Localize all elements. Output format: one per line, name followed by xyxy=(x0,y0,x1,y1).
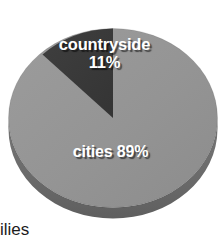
pie-chart-figure: countryside 11% cities 89% ilies xyxy=(0,0,221,237)
pie-chart-graphic xyxy=(0,0,221,237)
caption-fragment: ilies xyxy=(0,222,29,237)
caption-clipped-text: ilies xyxy=(0,222,90,237)
